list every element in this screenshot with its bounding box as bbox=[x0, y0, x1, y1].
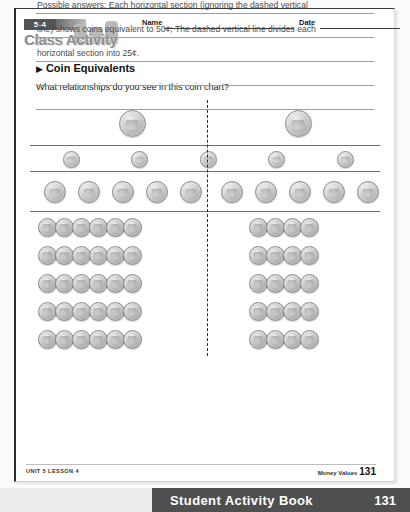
penny-coin bbox=[38, 218, 57, 237]
triangle-bullet-icon: ▶ bbox=[36, 64, 43, 74]
dime-coin bbox=[200, 151, 217, 168]
penny-coin bbox=[300, 274, 319, 293]
penny-coin bbox=[38, 302, 57, 321]
penny-coin bbox=[106, 274, 125, 293]
banner-page-number: 131 bbox=[374, 493, 396, 508]
penny-coin bbox=[89, 330, 108, 349]
penny-coin bbox=[89, 218, 108, 237]
answer-line-2-rule[interactable] bbox=[36, 37, 374, 38]
section-heading: ▶Coin Equivalents bbox=[36, 62, 135, 74]
penny-coin bbox=[283, 246, 302, 265]
nickel-coin bbox=[289, 181, 311, 203]
penny-coin bbox=[38, 274, 57, 293]
question-text: What relationships do you see in this co… bbox=[36, 82, 229, 92]
answer-line-3-rule[interactable] bbox=[36, 61, 374, 62]
penny-coin bbox=[38, 330, 57, 349]
nickel-coin bbox=[323, 181, 345, 203]
penny-coin bbox=[266, 246, 285, 265]
banner-title: Student Activity Book bbox=[170, 493, 313, 508]
penny-coin bbox=[72, 246, 91, 265]
penny-coin bbox=[72, 218, 91, 237]
penny-coin bbox=[106, 246, 125, 265]
dime-coin bbox=[337, 151, 354, 168]
penny-coin bbox=[249, 302, 268, 321]
chart-section-line-2 bbox=[30, 171, 380, 172]
penny-coin bbox=[55, 274, 74, 293]
penny-coin bbox=[283, 302, 302, 321]
penny-coin bbox=[123, 274, 142, 293]
answer-line-1-rule[interactable] bbox=[36, 13, 374, 14]
date-write-line[interactable] bbox=[320, 28, 400, 29]
footer-unit-lesson: UNIT 5 LESSON 4 bbox=[26, 468, 79, 474]
penny-coin bbox=[72, 302, 91, 321]
footer-topic-label: Money Values bbox=[318, 470, 358, 476]
penny-coin bbox=[106, 218, 125, 237]
penny-coin bbox=[72, 274, 91, 293]
penny-coin bbox=[266, 218, 285, 237]
footer-page-number: 131 bbox=[359, 466, 376, 477]
penny-coin bbox=[55, 246, 74, 265]
penny-coin bbox=[38, 246, 57, 265]
chart-section-line-3 bbox=[30, 211, 380, 212]
penny-coin bbox=[123, 330, 142, 349]
footer-divider bbox=[26, 464, 376, 465]
chart-section-line-1 bbox=[30, 145, 380, 146]
bottom-banner: Student Activity Book 131 bbox=[0, 488, 410, 512]
penny-coin bbox=[249, 274, 268, 293]
penny-coin bbox=[266, 302, 285, 321]
penny-coin bbox=[266, 274, 285, 293]
dime-coin bbox=[63, 151, 80, 168]
penny-coin bbox=[89, 302, 108, 321]
answer-line-4-rule[interactable] bbox=[36, 85, 374, 86]
penny-coin bbox=[89, 274, 108, 293]
penny-coin bbox=[283, 330, 302, 349]
footer-topic: Money Values131 bbox=[318, 466, 376, 477]
penny-coin bbox=[55, 218, 74, 237]
penny-coin bbox=[300, 330, 319, 349]
penny-coin bbox=[123, 302, 142, 321]
penny-coin bbox=[106, 330, 125, 349]
dime-coin bbox=[131, 151, 148, 168]
penny-coin bbox=[89, 246, 108, 265]
nickel-coin bbox=[44, 181, 66, 203]
answer-line-3-text: horizontal section into 25¢. bbox=[37, 48, 139, 58]
penny-coin bbox=[55, 302, 74, 321]
penny-coin bbox=[266, 330, 285, 349]
answer-line-1-text: Possible answers: Each horizontal sectio… bbox=[37, 0, 308, 10]
penny-coin bbox=[106, 302, 125, 321]
penny-coin bbox=[249, 330, 268, 349]
nickel-coin bbox=[221, 181, 243, 203]
nickel-coin bbox=[180, 181, 202, 203]
penny-coin bbox=[300, 246, 319, 265]
section-title: Coin Equivalents bbox=[46, 62, 135, 74]
nickel-coin bbox=[112, 181, 134, 203]
coin-chart bbox=[30, 100, 380, 356]
penny-coin bbox=[249, 246, 268, 265]
penny-coin bbox=[283, 218, 302, 237]
penny-coin bbox=[123, 218, 142, 237]
banner-left-block bbox=[0, 488, 152, 512]
penny-coin bbox=[55, 330, 74, 349]
penny-coin bbox=[72, 330, 91, 349]
quarter-coin bbox=[119, 110, 146, 137]
penny-coin bbox=[300, 302, 319, 321]
dime-coin bbox=[268, 151, 285, 168]
penny-coin bbox=[300, 218, 319, 237]
worksheet-page: 5-4 Class Activity Name Date ▶Coin Equiv… bbox=[0, 0, 410, 512]
penny-coin bbox=[249, 218, 268, 237]
dashed-vertical-divider bbox=[207, 100, 208, 356]
penny-coin bbox=[283, 274, 302, 293]
nickel-coin bbox=[78, 181, 100, 203]
nickel-coin bbox=[146, 181, 168, 203]
answer-line-5-rule[interactable] bbox=[36, 109, 374, 110]
nickel-coin bbox=[357, 181, 379, 203]
nickel-coin bbox=[255, 181, 277, 203]
quarter-coin bbox=[285, 110, 312, 137]
answer-line-2-text: line) shows coins equivalent to 50¢; The… bbox=[37, 24, 316, 34]
penny-coin bbox=[123, 246, 142, 265]
